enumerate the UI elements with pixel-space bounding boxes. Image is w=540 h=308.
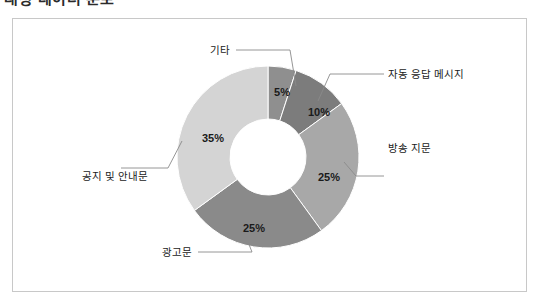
slice-value-label: 25% <box>243 222 265 234</box>
slice-value-label: 35% <box>202 132 224 144</box>
slice-category-label: 공지 및 안내문 <box>82 170 148 182</box>
slice-category-label: 방송 지문 <box>388 142 431 154</box>
slice-value-label: 25% <box>318 171 340 183</box>
slice-category-label: 자동 응답 메시지 <box>388 68 464 80</box>
donut-chart-svg: 5%10%25%25%35% 기타자동 응답 메시지방송 지문광고문공지 및 안… <box>0 0 540 308</box>
slices-group <box>177 66 359 248</box>
slice-category-label: 광고문 <box>162 246 192 258</box>
slice-value-label: 10% <box>308 106 330 118</box>
donut-chart: 5%10%25%25%35% 기타자동 응답 메시지방송 지문광고문공지 및 안… <box>0 0 540 308</box>
slice-category-label: 기타 <box>210 44 230 56</box>
leader-line <box>121 141 182 168</box>
slice-value-label: 5% <box>274 86 290 98</box>
